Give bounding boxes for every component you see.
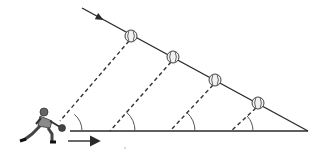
angle-arc-3: [187, 113, 195, 131]
sight-line-3: [170, 85, 213, 131]
angle-arc-1: [74, 114, 82, 131]
catcher-figure-icon: [20, 108, 66, 142]
sight-line-1: [60, 41, 129, 121]
diagram-svg: [0, 0, 326, 156]
ball-trajectory-line: [82, 8, 308, 131]
baseball-icon: [167, 51, 179, 63]
diagram-canvas: [0, 0, 326, 156]
baseball-icon: [125, 30, 137, 42]
speck: [124, 147, 125, 148]
angle-arcs: [74, 112, 253, 131]
baseball-icon: [252, 97, 264, 109]
angle-arc-4: [247, 116, 253, 131]
sight-line-2: [110, 62, 171, 131]
baseball-icon: [209, 74, 221, 86]
angle-arc-2: [127, 112, 135, 131]
